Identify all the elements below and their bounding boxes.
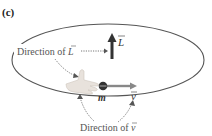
right-hand-icon	[66, 70, 99, 95]
L-symbol: L	[117, 36, 124, 48]
direction-of-L-label: Direction of vDirection of L	[17, 46, 74, 57]
dotted-arrowhead-icon	[104, 49, 108, 54]
direction-of-v-label: Direction of v	[80, 122, 136, 133]
mass-symbol: m	[98, 92, 106, 103]
panel-label: (c)	[2, 6, 15, 19]
L-vector-arrowhead-icon	[108, 33, 117, 42]
diagram-canvas: (c) Direction of vDirection of L L m v D…	[0, 0, 212, 136]
dotted-arrowhead-icon	[73, 73, 79, 78]
dotted-curve-to-hand-from-v	[80, 97, 94, 121]
dotted-curve-to-v	[118, 103, 132, 122]
velocity-arrowhead-icon	[130, 83, 137, 90]
dotted-curve-to-hand	[55, 59, 76, 76]
L-vector-shaft	[111, 41, 114, 59]
